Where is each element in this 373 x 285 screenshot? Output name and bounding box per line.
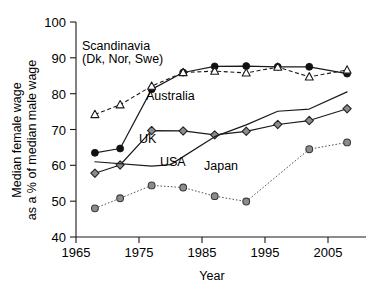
x-tick-label-1985: 1985 <box>188 245 217 260</box>
x-tick-label-1965: 1965 <box>62 245 91 260</box>
data-point <box>242 127 250 135</box>
y-axis-title-line2: as a % of median male wage <box>25 60 39 221</box>
y-tick-label-100: 100 <box>44 15 66 30</box>
series-japan <box>92 139 351 212</box>
series-layer <box>91 63 351 212</box>
annotation-scandinavia-line1: Scandinavia <box>82 39 150 53</box>
data-point <box>116 101 124 108</box>
y-axis-ticks <box>70 22 76 237</box>
series-australia <box>91 63 351 118</box>
annotation-australia: Australia <box>146 89 195 103</box>
annotation-scandinavia-line2: (Dk, Nor, Swe) <box>82 52 163 66</box>
data-point <box>305 73 313 80</box>
x-axis-tick-labels: 1965 1975 1985 1995 2005 <box>62 245 343 260</box>
data-point <box>148 182 155 189</box>
y-tick-label-60: 60 <box>52 158 66 173</box>
x-axis-ticks <box>76 237 328 243</box>
data-point <box>179 127 187 135</box>
data-point <box>180 184 187 191</box>
x-tick-label-2005: 2005 <box>314 245 343 260</box>
y-axis-title-line1: Median female wage <box>10 82 24 197</box>
data-point <box>117 195 124 202</box>
annotation-uk: UK <box>139 132 157 146</box>
data-point <box>211 193 218 200</box>
y-tick-label-70: 70 <box>52 123 66 138</box>
data-point <box>92 205 99 212</box>
data-point <box>343 105 351 113</box>
annotation-usa: USA <box>160 155 186 169</box>
data-point <box>343 66 351 73</box>
x-axis-title: Year <box>199 269 224 283</box>
x-tick-label-1995: 1995 <box>251 245 280 260</box>
series-annotations: Scandinavia (Dk, Nor, Swe) Australia UK … <box>82 39 238 173</box>
data-point <box>344 139 351 146</box>
y-axis-tick-labels: 100 90 80 70 60 50 40 <box>44 15 66 245</box>
data-point <box>242 69 250 76</box>
data-point <box>211 131 219 139</box>
data-point <box>306 146 313 153</box>
wage-gap-line-chart: Median female wage as a % of median male… <box>0 0 373 285</box>
series-line <box>95 92 347 166</box>
annotation-japan: Japan <box>204 159 238 173</box>
series-usa <box>95 92 347 166</box>
data-point <box>274 120 282 128</box>
data-point <box>117 145 124 152</box>
data-point <box>91 169 99 177</box>
data-point <box>91 149 98 156</box>
y-tick-label-80: 80 <box>52 87 66 102</box>
chart-container: Median female wage as a % of median male… <box>0 0 373 285</box>
y-tick-label-90: 90 <box>52 51 66 66</box>
data-point <box>306 63 313 70</box>
x-tick-label-1975: 1975 <box>125 245 154 260</box>
y-tick-label-50: 50 <box>52 194 66 209</box>
data-point <box>243 198 250 205</box>
y-axis-title: Median female wage as a % of median male… <box>10 60 39 221</box>
y-tick-label-40: 40 <box>52 230 66 245</box>
data-point <box>305 116 313 124</box>
